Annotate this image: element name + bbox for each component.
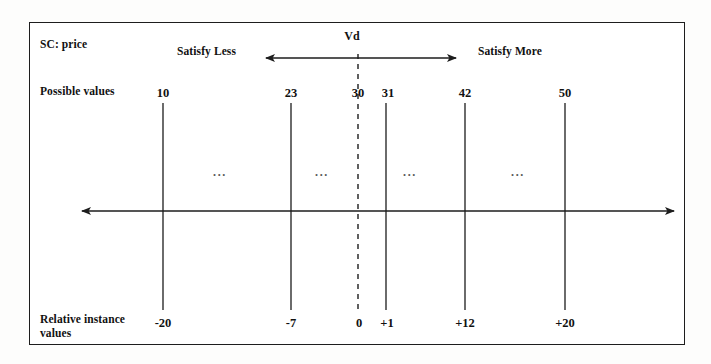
relative-value-label: +20 xyxy=(555,316,575,331)
diagram-frame-border xyxy=(29,22,685,345)
possible-value-label-vd: 30 xyxy=(352,86,365,101)
satisfy-more-label: Satisfy More xyxy=(478,45,542,59)
relative-instance-values-row-label-line1: Relative instance xyxy=(40,313,125,327)
diagram-canvas: SC: price Possible values Relative insta… xyxy=(0,0,711,364)
relative-value-label: +12 xyxy=(455,316,475,331)
vd-reference-label: Vd xyxy=(344,29,359,43)
possible-value-label: 10 xyxy=(157,86,170,101)
relative-value-label: +1 xyxy=(380,316,393,331)
ellipsis-marker: ... xyxy=(315,165,329,180)
possible-value-label: 42 xyxy=(459,86,472,101)
scale-title-label: SC: price xyxy=(40,38,87,52)
relative-value-label: -7 xyxy=(286,316,296,331)
possible-values-row-label: Possible values xyxy=(40,85,115,99)
relative-value-label: -20 xyxy=(155,316,172,331)
possible-value-label: 23 xyxy=(285,86,298,101)
ellipsis-marker: ... xyxy=(213,165,227,180)
possible-value-label: 31 xyxy=(382,86,395,101)
satisfy-less-label: Satisfy Less xyxy=(177,45,236,59)
relative-instance-values-row-label-line2: values xyxy=(40,327,71,341)
possible-value-label: 50 xyxy=(559,86,572,101)
ellipsis-marker: ... xyxy=(403,165,417,180)
relative-value-label-vd: 0 xyxy=(356,316,362,331)
ellipsis-marker: ... xyxy=(511,165,525,180)
